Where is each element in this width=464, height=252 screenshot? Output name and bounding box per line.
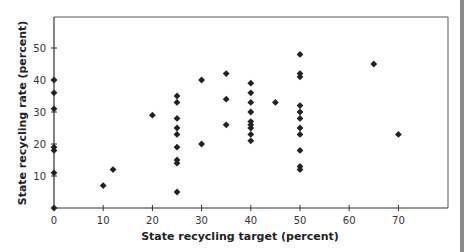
data-point (297, 147, 304, 154)
x-tick-label: 40 (244, 215, 257, 226)
x-tick-label: 70 (392, 215, 405, 226)
data-point (297, 109, 304, 116)
y-tick-label: 20 (33, 139, 46, 150)
data-point (247, 99, 254, 106)
data-point (247, 109, 254, 116)
data-point (297, 102, 304, 109)
x-axis-title: State recycling target (percent) (141, 230, 339, 243)
data-point (174, 189, 181, 196)
data-point (247, 89, 254, 96)
data-point (223, 96, 230, 103)
y-axis: 1020304050 (33, 17, 57, 208)
data-point (51, 105, 58, 112)
data-point (247, 131, 254, 138)
y-tick-label: 50 (33, 43, 46, 54)
data-point (370, 61, 377, 68)
data-point (297, 125, 304, 132)
x-tick-label: 60 (343, 215, 356, 226)
data-point (174, 125, 181, 132)
x-tick-label: 10 (97, 215, 110, 226)
data-point (297, 131, 304, 138)
data-point (297, 51, 304, 58)
data-point (272, 99, 279, 106)
data-point (198, 77, 205, 84)
x-tick-label: 0 (51, 215, 57, 226)
data-point (395, 131, 402, 138)
y-tick-label: 40 (33, 75, 46, 86)
data-points (51, 51, 402, 211)
data-point (297, 115, 304, 122)
y-tick-label: 10 (33, 171, 46, 182)
data-point (247, 137, 254, 144)
data-point (51, 169, 58, 176)
data-point (223, 121, 230, 128)
data-point (51, 77, 58, 84)
data-point (174, 99, 181, 106)
data-point (174, 115, 181, 122)
data-point (174, 131, 181, 138)
data-point (51, 89, 58, 96)
x-tick-label: 50 (294, 215, 307, 226)
x-tick-label: 30 (195, 215, 208, 226)
data-point (174, 144, 181, 151)
data-point (51, 205, 58, 212)
x-tick-label: 20 (146, 215, 159, 226)
y-tick-label: 30 (33, 107, 46, 118)
data-point (149, 112, 156, 119)
data-point (110, 166, 117, 173)
y-axis-title: State recycling rate (percent) (16, 21, 29, 206)
data-point (198, 141, 205, 148)
data-point (100, 182, 107, 189)
scatter-chart: 1020304050 010203040506070 State recycli… (0, 0, 464, 252)
data-point (174, 93, 181, 100)
data-point (247, 80, 254, 87)
window-edge (460, 0, 464, 252)
data-point (223, 70, 230, 77)
x-axis: 010203040506070 (51, 205, 448, 226)
